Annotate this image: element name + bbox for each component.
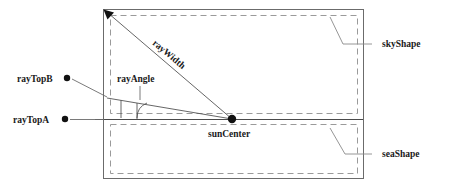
- ray-top-b-line: [107, 98, 232, 119]
- ray-top-b-label: rayTopB: [17, 74, 53, 84]
- ray-width-line: [108, 13, 232, 119]
- ray-top-a-label: rayTopA: [13, 115, 49, 125]
- ray-top-b-leader: [72, 79, 107, 97]
- sky-region-outline: [111, 16, 358, 114]
- diagram-canvas: rayTopB rayTopA rayAngle rayWidth sunCen…: [0, 0, 449, 189]
- sun-center-dot: [228, 115, 236, 123]
- ray-top-a-dot: [62, 116, 68, 122]
- ray-top-b-dot: [64, 75, 70, 81]
- sea-shape-label: seaShape: [382, 149, 419, 159]
- sky-shape-label: skyShape: [382, 39, 421, 49]
- outer-frame: [104, 10, 364, 179]
- ray-width-arrowhead: [104, 10, 115, 20]
- sun-center-label: sunCenter: [208, 129, 251, 139]
- ray-angle-label: rayAngle: [117, 74, 154, 84]
- sky-shape-callout: [330, 17, 372, 44]
- diagram-root: rayTopB rayTopA rayAngle rayWidth sunCen…: [0, 0, 449, 189]
- sea-shape-callout: [330, 128, 372, 154]
- ray-angle-arc: [137, 103, 147, 118]
